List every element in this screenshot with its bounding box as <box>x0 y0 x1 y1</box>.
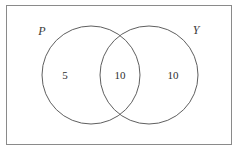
region-count-intersection: 10 <box>115 69 127 81</box>
region-count-p-only: 5 <box>62 69 68 81</box>
venn-diagram-svg: P Y 5 10 10 <box>0 0 238 152</box>
region-count-y-only: 10 <box>168 69 180 81</box>
set-label-p: P <box>37 24 46 38</box>
venn-diagram-canvas: P Y 5 10 10 <box>0 0 238 152</box>
